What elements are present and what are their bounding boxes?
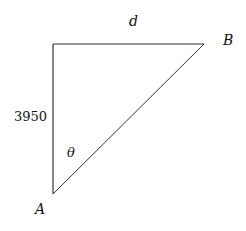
label-vertex-a: A xyxy=(35,202,45,216)
label-vertex-b: B xyxy=(223,33,233,47)
hypotenuse xyxy=(53,44,204,194)
label-d: d xyxy=(129,14,138,28)
label-3950: 3950 xyxy=(14,110,47,123)
label-theta: θ xyxy=(67,146,75,159)
